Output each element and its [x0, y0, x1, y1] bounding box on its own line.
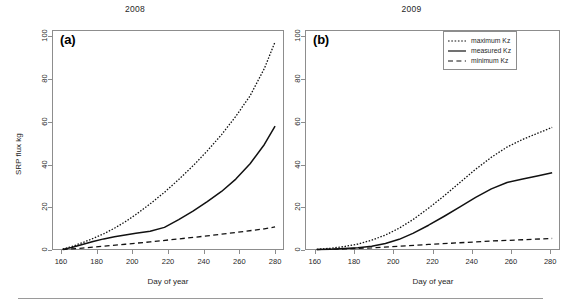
y-tick-label: 80: [40, 67, 49, 91]
y-tick-label: 60: [40, 109, 49, 133]
x-tick-mark: [239, 250, 240, 254]
series-line-maximum-kz: [317, 127, 552, 249]
x-tick-mark: [433, 250, 434, 254]
x-tick-mark: [61, 250, 62, 254]
legend-item-maximum: maximum Kz: [448, 36, 511, 45]
x-tick-label: 160: [300, 257, 330, 266]
x-tick-mark: [204, 250, 205, 254]
x-axis-title-2008: Day of year: [108, 277, 228, 286]
y-tick-mark: [48, 165, 52, 166]
y-tick-mark: [301, 122, 305, 123]
figure-container: 2008 (a) 1601802002202402602800204060801…: [0, 0, 561, 306]
x-tick-mark: [550, 250, 551, 254]
y-tick-mark: [48, 36, 52, 37]
y-tick-mark: [48, 207, 52, 208]
legend-item-measured: measured Kz: [448, 46, 511, 55]
x-tick-mark: [168, 250, 169, 254]
y-tick-label: 60: [293, 109, 302, 133]
x-tick-label: 280: [535, 257, 561, 266]
series-line-minimum-kz: [63, 227, 275, 250]
y-tick-mark: [301, 36, 305, 37]
y-tick-label: 20: [40, 195, 49, 219]
x-tick-mark: [132, 250, 133, 254]
y-tick-label: 40: [40, 152, 49, 176]
y-tick-label: 100: [40, 24, 49, 48]
legend-label-maximum: maximum Kz: [471, 37, 510, 45]
x-tick-label: 220: [418, 257, 448, 266]
x-tick-label: 180: [339, 257, 369, 266]
legend: maximum Kz measured Kz minimum Kz: [443, 31, 517, 70]
x-tick-label: 220: [153, 257, 183, 266]
x-tick-mark: [511, 250, 512, 254]
x-tick-label: 240: [457, 257, 487, 266]
y-tick-mark: [301, 165, 305, 166]
legend-key-maximum-icon: [448, 37, 466, 45]
y-tick-mark: [48, 79, 52, 80]
y-tick-label: 0: [40, 238, 49, 262]
chart-panel-2009: 2009 (b) 1601802002202402602800204060801…: [290, 0, 561, 306]
x-tick-label: 200: [378, 257, 408, 266]
y-axis-title-2008: SRP flux kg: [14, 133, 23, 175]
y-tick-label: 100: [293, 24, 302, 48]
x-tick-mark: [393, 250, 394, 254]
series-line-measured-kz: [317, 173, 552, 250]
x-tick-label: 200: [117, 257, 147, 266]
y-tick-label: 40: [293, 152, 302, 176]
x-tick-label: 240: [189, 257, 219, 266]
x-tick-label: 260: [224, 257, 254, 266]
legend-label-measured: measured Kz: [471, 47, 511, 55]
x-tick-mark: [472, 250, 473, 254]
y-tick-label: 0: [293, 238, 302, 262]
y-tick-mark: [48, 250, 52, 251]
x-tick-mark: [275, 250, 276, 254]
y-tick-label: 20: [293, 195, 302, 219]
x-tick-mark: [315, 250, 316, 254]
legend-label-minimum: minimum Kz: [471, 57, 508, 65]
y-tick-mark: [301, 207, 305, 208]
y-tick-mark: [301, 79, 305, 80]
x-tick-mark: [97, 250, 98, 254]
x-axis-title-2009: Day of year: [373, 277, 493, 286]
x-tick-label: 180: [82, 257, 112, 266]
legend-key-minimum-icon: [448, 57, 466, 65]
x-tick-label: 260: [496, 257, 526, 266]
footer-divider: [18, 298, 543, 299]
x-tick-label: 280: [260, 257, 290, 266]
series-line-measured-kz: [63, 126, 275, 249]
y-tick-mark: [48, 122, 52, 123]
x-tick-mark: [354, 250, 355, 254]
chart-panel-2008: 2008 (a) 1601802002202402602800204060801…: [0, 0, 290, 306]
legend-key-measured-icon: [448, 47, 466, 55]
y-tick-mark: [301, 250, 305, 251]
x-tick-label: 160: [46, 257, 76, 266]
series-line-maximum-kz: [63, 42, 275, 249]
legend-item-minimum: minimum Kz: [448, 56, 511, 65]
y-tick-label: 80: [293, 67, 302, 91]
